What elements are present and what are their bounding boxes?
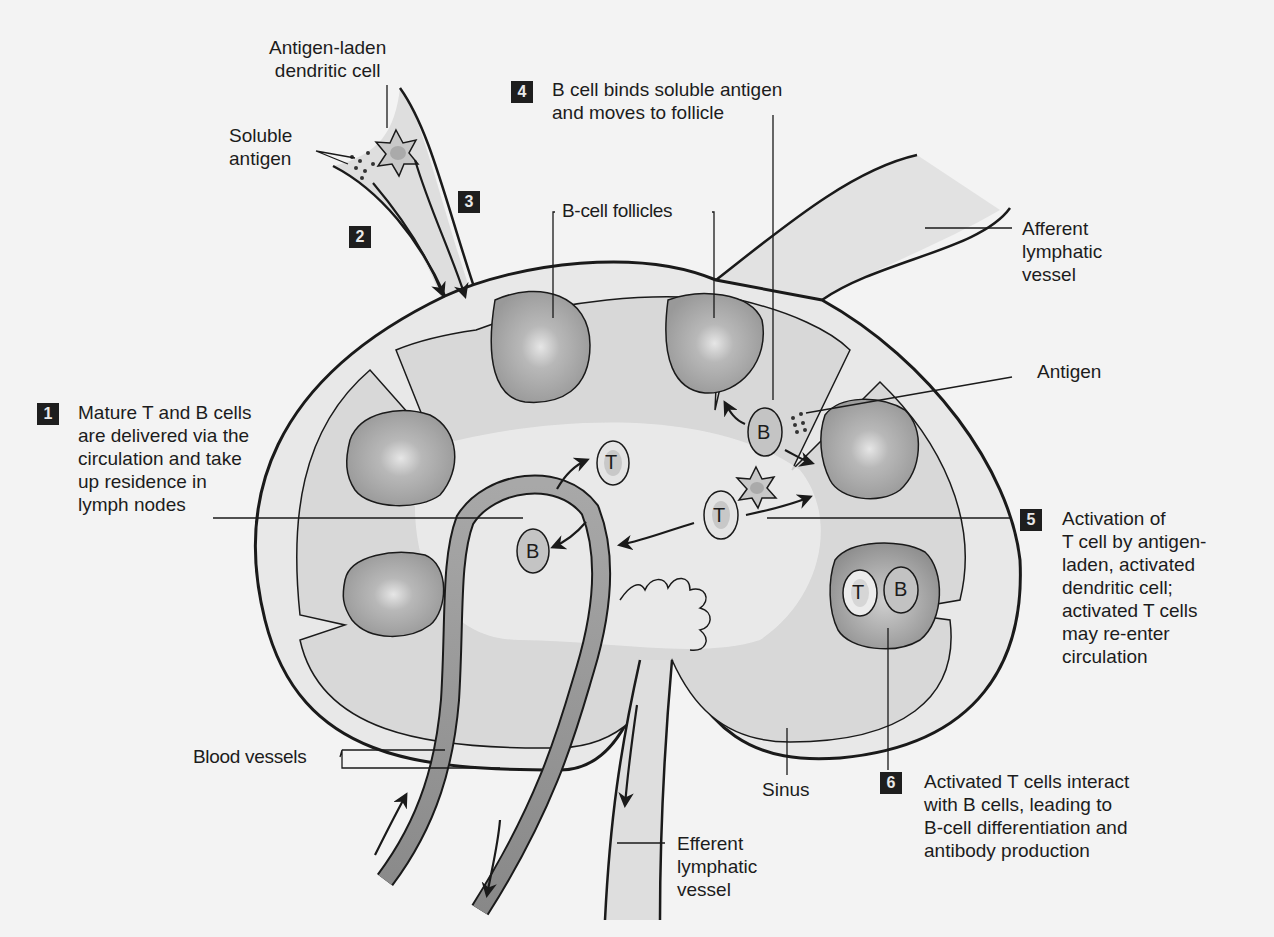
label-sinus: Sinus	[762, 778, 810, 801]
cell-letter-b-right: B	[757, 421, 770, 444]
step-5-description: Activation of T cell by antigen- laden, …	[1062, 507, 1206, 668]
step-badge-6: 6	[880, 772, 902, 794]
label-afferent-lymphatic-vessel: Afferent lymphatic vessel	[1022, 217, 1102, 286]
cell-letter-b-left: B	[526, 540, 539, 563]
label-b-cell-follicles: B-cell follicles	[562, 199, 672, 222]
step-badge-3: 3	[458, 191, 480, 213]
label-antigen-laden-dendritic-cell: Antigen-laden dendritic cell	[269, 36, 386, 82]
label-antigen: Antigen	[1037, 360, 1101, 383]
label-blood-vessels: Blood vessels	[193, 745, 306, 768]
germinal-center	[830, 543, 939, 649]
step-4-description: B cell binds soluble antigen and moves t…	[552, 78, 782, 124]
step-1-description: Mature T and B cells are delivered via t…	[78, 401, 252, 516]
cell-letter-t-germinal: T	[852, 581, 864, 604]
step-badge-2: 2	[349, 226, 371, 248]
lymph-node-diagram: T B B T T B Antigen-laden dendritic cell…	[0, 0, 1274, 937]
step-badge-5: 5	[1020, 509, 1042, 531]
label-efferent-lymphatic-vessel: Efferent lymphatic vessel	[677, 832, 757, 901]
cell-letter-b-germinal: B	[894, 578, 907, 601]
cell-letter-t-right: T	[713, 504, 725, 527]
step-badge-1: 1	[37, 403, 59, 425]
step-badge-4: 4	[511, 81, 533, 103]
cell-letter-t-upper: T	[605, 451, 617, 474]
step-6-description: Activated T cells interact with B cells,…	[924, 770, 1129, 862]
label-soluble-antigen: Soluble antigen	[229, 124, 292, 170]
